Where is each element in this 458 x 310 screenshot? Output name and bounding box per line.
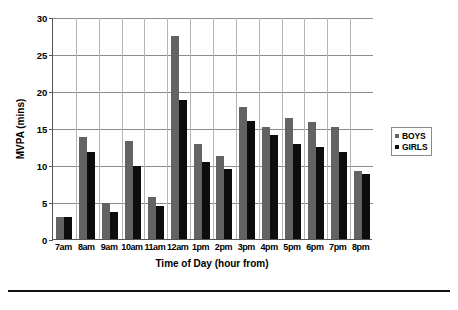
x-axis-tick-label: 1pm [189,242,212,252]
x-axis-tick-label: 5pm [281,242,304,252]
bar-girls-2pm [224,169,232,239]
y-axis-tick-label: 25 [37,50,47,61]
y-axis-tick-label: 10 [37,161,47,172]
bar-group [53,17,76,239]
legend-label-girls: GIRLS [402,142,427,152]
bar-girls-6pm [316,147,324,239]
chart-legend: BOYS GIRLS [391,127,432,156]
bar-girls-12am [179,100,187,239]
x-axis-tick-label: 9am [98,242,121,252]
bar-boys-8pm [354,171,362,239]
bar-group [99,17,122,239]
y-axis-tick-label: 30 [37,13,47,24]
bar-girls-8am [87,152,95,239]
bar-group [236,17,259,239]
y-axis-tick-label: 20 [37,87,47,98]
bar-group [76,17,99,239]
x-axis-title: Time of Day (hour from) [52,258,372,269]
bar-boys-11am [148,197,156,239]
bar-group [144,17,167,239]
x-axis-tick-label: 11am [143,242,166,252]
bar-boys-12am [171,36,179,240]
bar-boys-6pm [308,122,316,239]
bar-girls-11am [156,206,164,239]
bar-boys-8am [79,137,87,239]
legend-label-boys: BOYS [402,131,426,141]
x-axis-tick-label: 12am [166,242,189,252]
chart-figure: MVPA (mins) 302520151050 7am8am9am10am11… [0,0,458,310]
bar-boys-9am [102,203,110,239]
footer-divider [8,290,450,292]
boys-swatch-icon [395,134,399,138]
x-axis-tick-label: 7am [52,242,75,252]
legend-item-boys: BOYS [395,130,427,141]
bar-boys-3pm [239,107,247,239]
bar-group [213,17,236,239]
bar-group [259,17,282,239]
y-axis-title-container: MVPA (mins) [14,18,28,240]
legend-item-girls: GIRLS [395,141,427,152]
bar-group [122,17,145,239]
bar-girls-4pm [270,135,278,239]
x-axis-tick-label: 8am [75,242,98,252]
bar-series-container [53,17,373,239]
bar-girls-1pm [202,162,210,239]
x-axis-tick-labels: 7am8am9am10am11am12am1pm2pm3pm4pm5pm6pm7… [52,242,372,252]
x-axis-tick-label: 8pm [349,242,372,252]
plot-area: 302520151050 [52,18,372,240]
bar-group [167,17,190,239]
girls-swatch-icon [395,145,399,149]
bar-boys-4pm [262,127,270,239]
x-axis-tick-label: 10am [121,242,144,252]
y-axis-tick-label: 5 [42,198,47,209]
x-axis-tick-label: 3pm [235,242,258,252]
y-axis-tick [49,240,53,241]
bar-girls-7am [64,217,72,239]
x-axis-tick-label: 7pm [326,242,349,252]
bar-group [190,17,213,239]
y-axis-title: MVPA (mins) [15,99,26,160]
bar-boys-5pm [285,118,293,239]
bar-boys-2pm [216,156,224,239]
bar-girls-8pm [362,174,370,239]
x-axis-tick-label: 2pm [212,242,235,252]
bar-boys-10am [125,141,133,239]
bar-girls-5pm [293,144,301,239]
bar-boys-1pm [194,144,202,239]
y-axis-tick-label: 15 [37,124,47,135]
y-axis-tick-label: 0 [42,235,47,246]
bar-girls-7pm [339,152,347,239]
bar-group [350,17,373,239]
bar-boys-7pm [331,127,339,239]
bar-boys-7am [56,217,64,239]
bar-girls-3pm [247,121,255,239]
bar-girls-9am [110,212,118,239]
bar-group [327,17,350,239]
bar-girls-10am [133,166,141,239]
x-axis-tick-label: 6pm [303,242,326,252]
bar-group [304,17,327,239]
x-axis-tick-label: 4pm [258,242,281,252]
bar-group [282,17,305,239]
